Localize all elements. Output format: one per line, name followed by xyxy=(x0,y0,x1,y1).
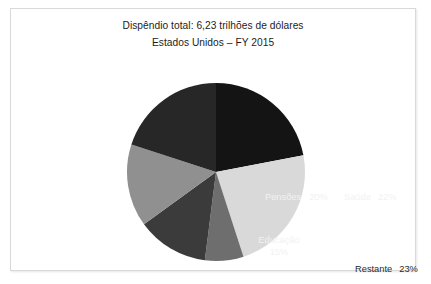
pie-label-restante-value: 23% xyxy=(399,264,418,274)
pie-label-saude: Saúde22% xyxy=(344,189,397,203)
pie-svg xyxy=(126,82,306,262)
chart-card: Dispêndio total: 6,23 trilhões de dólare… xyxy=(10,8,416,271)
pie-slice-group xyxy=(127,83,305,261)
chart-title-block: Dispêndio total: 6,23 trilhões de dólare… xyxy=(11,18,415,50)
pie-label-restante: Restante23% xyxy=(355,261,418,275)
pie-label-restante-name: Restante xyxy=(355,264,392,274)
chart-subtitle: Estados Unidos – FY 2015 xyxy=(11,35,415,50)
pie-label-pensoes-value: 20% xyxy=(309,192,328,202)
pie-label-saude-name: Saúde xyxy=(344,192,371,202)
chart-title: Dispêndio total: 6,23 trilhões de dólare… xyxy=(11,18,415,33)
pie-chart: Saúde22% Restante23% Bem-estar 7% Defesa… xyxy=(126,82,306,262)
pie-label-saude-value: 22% xyxy=(378,192,397,202)
